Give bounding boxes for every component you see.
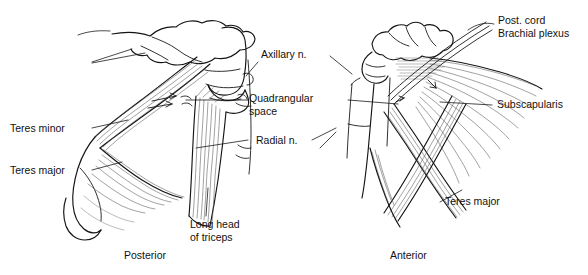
- label-quadrangular-space: Quadrangular space: [249, 92, 313, 117]
- label-long-head-line2: of triceps: [190, 231, 240, 244]
- label-quadrangular-space-line1: Quadrangular: [249, 92, 313, 105]
- caption-posterior: Posterior: [124, 249, 166, 261]
- label-teres-major-anterior: Teres major: [445, 195, 500, 208]
- label-long-head-of-triceps: Long head of triceps: [190, 218, 240, 243]
- caption-anterior: Anterior: [390, 249, 427, 261]
- label-post-cord-brachial-plexus: Post. cord Brachial plexus: [498, 14, 569, 39]
- label-teres-minor: Teres minor: [10, 122, 65, 135]
- label-brachial-plexus: Brachial plexus: [498, 27, 569, 40]
- label-subscapularis: Subscapularis: [497, 98, 563, 111]
- label-radial-nerve: Radial n.: [256, 134, 297, 147]
- posterior-view-art: [64, 21, 255, 240]
- anatomy-figure: Axillary n. Quadrangular space Radial n.…: [0, 0, 588, 275]
- label-quadrangular-space-line2: space: [249, 105, 313, 118]
- label-long-head-line1: Long head: [190, 218, 240, 231]
- label-post-cord: Post. cord: [498, 14, 569, 27]
- label-teres-major-posterior: Teres major: [10, 164, 65, 177]
- label-axillary-nerve: Axillary n.: [261, 48, 307, 61]
